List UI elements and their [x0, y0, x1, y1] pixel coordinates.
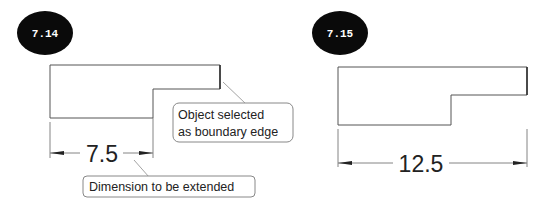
- figure-7-15: 7.15 12.5: [312, 11, 527, 177]
- dimension-value: 12.5: [399, 151, 444, 177]
- figure-7-14: 7.14 7.5 Object selected as boundary edg…: [17, 11, 293, 197]
- diagram-canvas: 7.14 7.5 Object selected as boundary edg…: [0, 0, 545, 204]
- boundary-callout-line2: as boundary edge: [178, 125, 278, 139]
- arrowhead-left-icon: [50, 151, 64, 155]
- figure-badge: 7.15: [312, 11, 368, 55]
- boundary-leader: [223, 82, 246, 104]
- object-outline: [338, 67, 527, 125]
- arrowhead-right-icon: [513, 161, 527, 165]
- arrowhead-right-icon: [139, 151, 153, 155]
- badge-label: 7.14: [32, 28, 59, 40]
- dimension-callout-text: Dimension to be extended: [89, 180, 234, 194]
- dimension-value: 7.5: [86, 141, 118, 167]
- arrowhead-left-icon: [338, 161, 352, 165]
- figure-badge: 7.14: [17, 11, 73, 55]
- dimension-leader: [134, 160, 149, 177]
- badge-label: 7.15: [327, 28, 354, 40]
- boundary-callout-line1: Object selected: [178, 108, 264, 122]
